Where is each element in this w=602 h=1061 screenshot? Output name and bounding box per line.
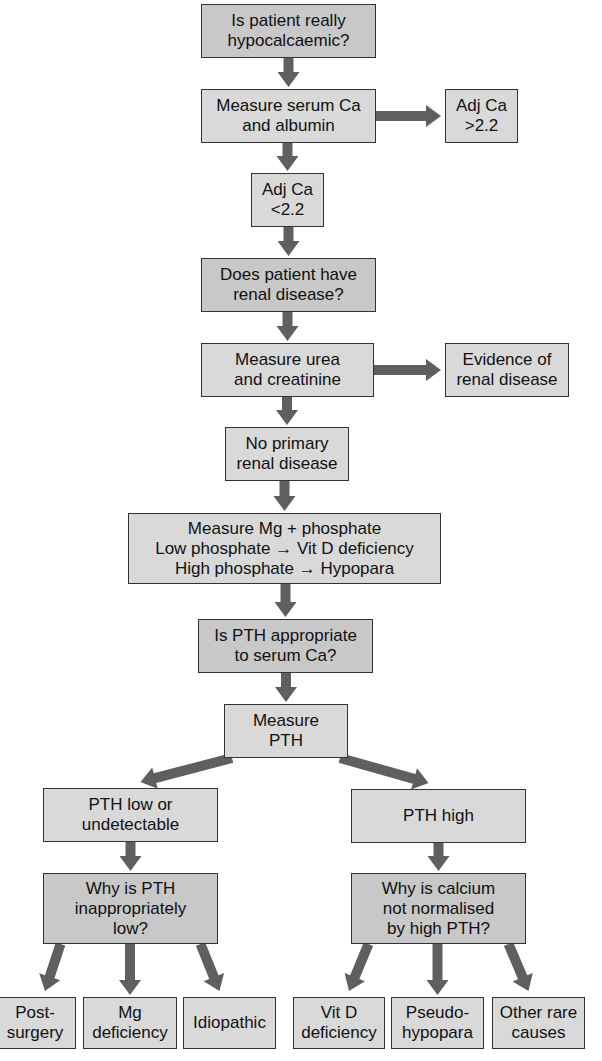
node-text-line: Is PTH appropriate <box>214 626 357 646</box>
arrow-q-hypocalcaemic-to-measure-ca <box>278 58 300 87</box>
node-q-hypocalcaemic: Is patient reallyhypocalcaemic? <box>201 4 376 58</box>
node-other-rare-causes: Other rarecauses <box>492 997 585 1049</box>
arrow-q-pth-low-to-mg-deficiency <box>119 944 141 995</box>
arrow-pth-high-to-q-ca-not-normal <box>428 843 450 871</box>
arrow-measure-ca-to-adj-ca-high <box>376 105 441 127</box>
node-text-line: Does patient have <box>220 265 357 285</box>
node-text-line: PTH low or <box>88 795 172 815</box>
arrow-measure-pth-to-pth-high <box>339 753 429 789</box>
arrow-measure-ca-to-adj-ca-low <box>277 143 299 171</box>
node-text-line: undetectable <box>82 815 179 835</box>
node-text-line: hypocalcaemic? <box>228 31 350 51</box>
node-text-line: PTH high <box>403 806 474 826</box>
node-pseudo-hypopara: Pseudo-hypopara <box>391 997 484 1049</box>
node-text-line: Is patient really <box>231 11 345 31</box>
node-no-renal-disease: No primaryrenal disease <box>225 427 349 481</box>
arrow-q-pth-low-to-post-surgery <box>39 942 65 991</box>
node-text-line: Mg <box>118 1003 142 1023</box>
node-text-line: surgery <box>7 1023 64 1043</box>
node-text-line: Measure serum Ca <box>216 96 361 116</box>
node-measure-serum-ca: Measure serum Caand albumin <box>201 89 376 143</box>
node-text-line: Evidence of <box>463 350 552 370</box>
node-text-line: >2.2 <box>465 116 499 136</box>
node-text-line: Other rare <box>500 1003 577 1023</box>
node-text-line: Low phosphate → Vit D deficiency <box>155 539 414 559</box>
arrow-q-renal-to-measure-urea <box>277 312 299 341</box>
node-text-line: Why is PTH <box>86 879 176 899</box>
node-post-surgery: Post-surgery <box>0 997 76 1049</box>
node-text-line: Measure <box>253 711 319 731</box>
arrow-no-renal-to-measure-mg <box>274 481 296 511</box>
node-pth-low: PTH low orundetectable <box>43 788 218 842</box>
node-text-line: causes <box>512 1023 566 1043</box>
arrow-q-ca-not-normal-to-pseudo-hypopara <box>427 944 449 995</box>
node-text-line: Measure Mg + phosphate <box>188 519 381 539</box>
node-q-pth-appropriate: Is PTH appropriateto serum Ca? <box>198 619 373 673</box>
node-text-line: to serum Ca? <box>234 646 336 666</box>
arrow-measure-mg-to-q-pth <box>275 584 297 617</box>
node-adj-ca-low: Adj Ca<2.2 <box>251 173 324 227</box>
node-text-line: inappropriately <box>75 899 187 919</box>
node-pth-high: PTH high <box>351 789 526 843</box>
node-q-renal-disease: Does patient haverenal disease? <box>201 258 376 312</box>
node-text-line: <2.2 <box>271 200 305 220</box>
node-text-line: renal disease <box>236 454 337 474</box>
arrow-measure-urea-to-no-renal <box>276 397 298 425</box>
arrow-q-ca-not-normal-to-vitd-deficiency <box>345 942 374 991</box>
node-renal-evidence: Evidence ofrenal disease <box>445 343 569 397</box>
node-text-line: Adj Ca <box>456 96 507 116</box>
arrow-pth-low-to-q-pth-low <box>120 842 142 871</box>
arrow-q-pth-low-to-idiopathic <box>196 942 224 991</box>
arrow-q-pth-to-measure-pth <box>275 673 297 702</box>
arrow-adj-ca-low-to-q-renal <box>278 227 300 256</box>
node-text-line: deficiency <box>92 1023 168 1043</box>
node-mg-deficiency: Mgdeficiency <box>83 997 177 1049</box>
node-text-line: not normalised <box>383 899 495 919</box>
node-text-line: Idiopathic <box>193 1013 266 1033</box>
node-measure-mg-phosphate: Measure Mg + phosphateLow phosphate → Vi… <box>128 513 441 584</box>
node-text-line: deficiency <box>301 1023 377 1043</box>
node-measure-urea: Measure ureaand creatinine <box>201 343 374 397</box>
node-vit-d-deficiency: Vit Ddeficiency <box>293 997 385 1049</box>
arrow-measure-urea-to-renal-evidence <box>374 359 441 381</box>
node-text-line: renal disease? <box>233 285 344 305</box>
node-text-line: renal disease <box>456 370 557 390</box>
node-text-line: and creatinine <box>234 370 341 390</box>
node-text-line: and albumin <box>242 116 335 136</box>
node-q-ca-not-normalised: Why is calciumnot normalisedby high PTH? <box>351 873 526 944</box>
node-text-line: by high PTH? <box>387 919 490 939</box>
arrow-measure-pth-to-pth-low <box>141 753 234 789</box>
node-text-line: No primary <box>245 434 328 454</box>
node-text-line: PTH <box>269 731 303 751</box>
node-measure-pth: MeasurePTH <box>224 704 348 758</box>
node-text-line: Vit D <box>321 1003 358 1023</box>
node-text-line: Adj Ca <box>262 180 313 200</box>
node-text-line: low? <box>113 919 148 939</box>
node-text-line: High phosphate → Hypopara <box>175 559 394 579</box>
node-text-line: Why is calcium <box>382 879 495 899</box>
node-text-line: hypopara <box>402 1023 473 1043</box>
node-adj-ca-high: Adj Ca>2.2 <box>445 89 518 143</box>
node-text-line: Post- <box>15 1003 55 1023</box>
node-text-line: Pseudo- <box>406 1003 469 1023</box>
node-text-line: Measure urea <box>235 350 340 370</box>
node-idiopathic: Idiopathic <box>183 997 276 1049</box>
node-q-pth-low: Why is PTHinappropriatelylow? <box>43 873 218 944</box>
arrow-q-ca-not-normal-to-other-rare <box>504 942 533 991</box>
